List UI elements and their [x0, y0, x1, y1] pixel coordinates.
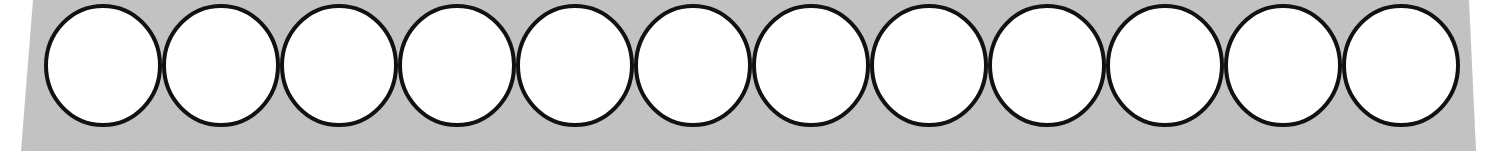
circle-3 — [282, 6, 396, 125]
circle-12 — [1344, 6, 1458, 125]
circle-8 — [872, 6, 986, 125]
circle-9 — [990, 6, 1104, 125]
circle-5 — [518, 6, 632, 125]
circle-1 — [46, 6, 160, 125]
circle-6 — [636, 6, 750, 125]
circle-7 — [754, 6, 868, 125]
circle-11 — [1226, 6, 1340, 125]
circle-10 — [1108, 6, 1222, 125]
circle-4 — [400, 6, 514, 125]
circle-2 — [164, 6, 278, 125]
circle-strip-diagram — [0, 0, 1497, 151]
